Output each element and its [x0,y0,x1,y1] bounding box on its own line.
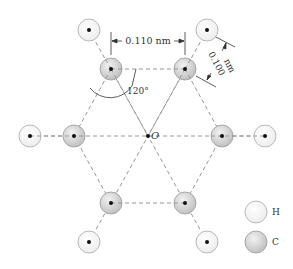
legend-carbon-swatch [245,231,267,253]
benzene-diagram: 0.110 nm 0.100 nm 120° [0,0,293,269]
legend-carbon-label: C [272,237,279,247]
center-point [146,134,150,138]
legend-hydrogen-swatch [245,201,267,223]
center-label: O [151,130,159,141]
angle-label: 120° [127,86,149,96]
cc-distance-label: 0.110 nm [125,35,170,46]
legend: H C [245,201,280,253]
legend-hydrogen-label: H [272,207,280,217]
